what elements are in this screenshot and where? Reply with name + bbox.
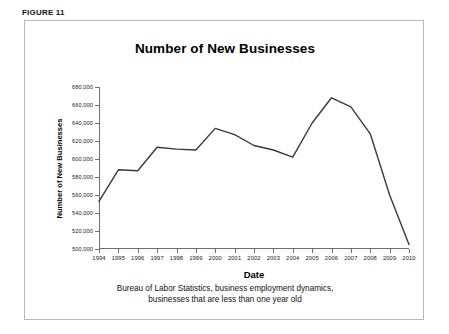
figure-frame: Number of New Businesses Number of New B… (24, 20, 424, 320)
x-axis-tick-label: 2008 (364, 255, 377, 261)
x-axis-tick (99, 249, 100, 253)
x-axis-tick (332, 249, 333, 253)
y-axis-tick-label: 600,000 (72, 156, 93, 162)
x-axis-tick (138, 249, 139, 253)
x-axis-tick-label: 1998 (170, 255, 183, 261)
y-axis-tick-label: 540,000 (72, 210, 93, 216)
plot-area: 500,000520,000540,000560,000580,000600,0… (99, 87, 409, 249)
x-axis-tick (312, 249, 313, 253)
x-axis-tick (177, 249, 178, 253)
source-note-line-2: businesses that are less than one year o… (55, 294, 395, 305)
x-axis-tick (196, 249, 197, 253)
x-axis-tick-label: 1995 (112, 255, 125, 261)
x-axis-tick-label: 2009 (383, 255, 396, 261)
x-axis-tick (215, 249, 216, 253)
y-axis-tick-label: 520,000 (72, 228, 93, 234)
x-axis-tick-label: 2000 (209, 255, 222, 261)
x-axis-tick-label: 2004 (286, 255, 299, 261)
x-axis-tick (409, 249, 410, 253)
x-axis-tick (273, 249, 274, 253)
y-axis-title-text: Number of New Businesses (55, 118, 64, 218)
y-axis-tick-label: 620,000 (72, 138, 93, 144)
x-axis-tick-label: 2005 (305, 255, 318, 261)
x-axis-tick (351, 249, 352, 253)
x-axis-tick (254, 249, 255, 253)
x-axis-tick-label: 2006 (325, 255, 338, 261)
y-axis-tick-label: 580,000 (72, 174, 93, 180)
x-axis-tick-label: 2007 (344, 255, 357, 261)
chart-title: Number of New Businesses (25, 41, 425, 56)
x-axis-tick (390, 249, 391, 253)
x-axis-tick (293, 249, 294, 253)
x-axis-title: Date (99, 269, 409, 280)
figure-number-label: FIGURE 11 (22, 8, 65, 17)
y-axis-tick-label: 640,000 (72, 120, 93, 126)
x-axis-tick-label: 1996 (131, 255, 144, 261)
y-axis-tick-label: 560,000 (72, 192, 93, 198)
x-axis-tick-label: 2002 (247, 255, 260, 261)
y-axis-tick-label: 500,000 (72, 246, 93, 252)
source-note-line-1: Bureau of Labor Statistics, business emp… (55, 283, 395, 294)
y-axis-title: Number of New Businesses (53, 87, 65, 249)
source-note: Bureau of Labor Statistics, business emp… (55, 283, 395, 305)
x-axis-tick (235, 249, 236, 253)
x-axis-tick (370, 249, 371, 253)
x-axis-tick-label: 2001 (228, 255, 241, 261)
y-axis-tick-label: 680,000 (72, 84, 93, 90)
y-axis-tick-label: 660,000 (72, 102, 93, 108)
x-axis-tick-label: 1994 (92, 255, 105, 261)
x-axis-tick-label: 2003 (267, 255, 280, 261)
line-series-new-businesses (99, 87, 409, 249)
x-axis-tick (118, 249, 119, 253)
figure-page: FIGURE 11 Number of New Businesses Numbe… (0, 0, 449, 334)
x-axis-tick (157, 249, 158, 253)
x-axis-tick-label: 2010 (402, 255, 415, 261)
x-axis-tick-label: 1997 (150, 255, 163, 261)
x-axis-tick-label: 1999 (189, 255, 202, 261)
